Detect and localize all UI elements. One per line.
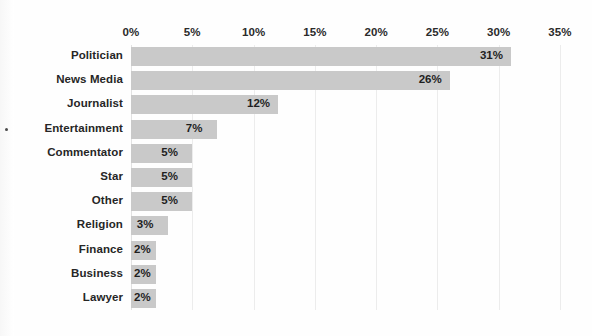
bar-row: Commentator5% bbox=[0, 143, 592, 167]
bar-row: Lawyer2% bbox=[0, 288, 592, 312]
x-tick-label: 15% bbox=[285, 26, 345, 38]
x-axis-tick-labels: 0%5%10%15%20%25%30%35% bbox=[0, 26, 592, 42]
bar-row: News Media26% bbox=[0, 70, 592, 94]
x-tick-label: 0% bbox=[101, 26, 161, 38]
category-label: Religion bbox=[0, 218, 123, 230]
x-tick-label: 35% bbox=[530, 26, 590, 38]
bar[interactable] bbox=[131, 120, 217, 139]
bar-value-label: 31% bbox=[480, 49, 503, 61]
category-label: Star bbox=[0, 170, 123, 182]
bar-value-label: 12% bbox=[247, 97, 270, 109]
bar-row: Finance2% bbox=[0, 240, 592, 264]
bar-value-label: 7% bbox=[186, 122, 203, 134]
category-label: Politician bbox=[0, 49, 123, 61]
bar-value-label: 2% bbox=[134, 267, 151, 279]
bar-row: Star5% bbox=[0, 167, 592, 191]
category-label: Journalist bbox=[0, 97, 123, 109]
bar-row: Entertainment7% bbox=[0, 119, 592, 143]
bar[interactable] bbox=[131, 71, 450, 90]
bar-row: Journalist12% bbox=[0, 94, 592, 118]
bar-value-label: 5% bbox=[161, 194, 178, 206]
x-tick-label: 25% bbox=[407, 26, 467, 38]
category-label: News Media bbox=[0, 73, 123, 85]
x-tick-label: 5% bbox=[162, 26, 222, 38]
category-label: Entertainment bbox=[0, 122, 123, 134]
bar-row: Religion3% bbox=[0, 215, 592, 239]
bar-value-label: 3% bbox=[137, 218, 154, 230]
bar-row: Other5% bbox=[0, 191, 592, 215]
category-label: Finance bbox=[0, 243, 123, 255]
category-label: Other bbox=[0, 194, 123, 206]
x-tick-label: 30% bbox=[469, 26, 529, 38]
bar-value-label: 2% bbox=[134, 291, 151, 303]
bar-chart: 0%5%10%15%20%25%30%35% Politician31%News… bbox=[0, 0, 592, 336]
bar-value-label: 5% bbox=[161, 170, 178, 182]
bar-row: Politician31% bbox=[0, 46, 592, 70]
category-label: Lawyer bbox=[0, 291, 123, 303]
category-label: Business bbox=[0, 267, 123, 279]
x-tick-label: 20% bbox=[346, 26, 406, 38]
bar[interactable] bbox=[131, 47, 511, 66]
bar-value-label: 26% bbox=[419, 73, 442, 85]
bar-row: Business2% bbox=[0, 264, 592, 288]
bar-value-label: 5% bbox=[161, 146, 178, 158]
bar-value-label: 2% bbox=[134, 243, 151, 255]
x-tick-label: 10% bbox=[224, 26, 284, 38]
category-label: Commentator bbox=[0, 146, 123, 158]
